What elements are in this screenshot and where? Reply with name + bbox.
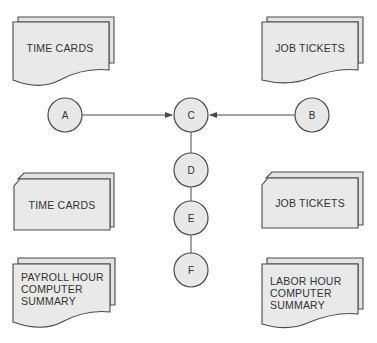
node-label: A bbox=[62, 110, 69, 121]
document-label-line-1: PAYROLL HOUR bbox=[21, 271, 104, 283]
node-label: C bbox=[187, 110, 194, 121]
document-label-line-3: SUMMARY bbox=[21, 295, 76, 307]
node-label: D bbox=[187, 165, 194, 176]
document-label-line-2: COMPUTER bbox=[21, 283, 83, 295]
flowchart-canvas: TIME CARDS JOB TICKETS A C B D E F TIME … bbox=[0, 0, 377, 343]
node-label: F bbox=[188, 265, 194, 276]
node-b[interactable]: B bbox=[295, 98, 329, 132]
document-label-line-1: LABOR HOUR bbox=[270, 275, 342, 287]
node-a[interactable]: A bbox=[48, 98, 82, 132]
node-label: B bbox=[309, 110, 316, 121]
card-label: JOB TICKETS bbox=[275, 197, 345, 209]
document-payroll-hour-summary[interactable]: PAYROLL HOUR COMPUTER SUMMARY bbox=[13, 258, 115, 327]
document-label: JOB TICKETS bbox=[275, 42, 345, 54]
node-d[interactable]: D bbox=[174, 153, 208, 187]
document-label-line-2: COMPUTER bbox=[270, 287, 332, 299]
card-label: TIME CARDS bbox=[29, 199, 96, 211]
document-time-cards-source[interactable]: TIME CARDS bbox=[13, 17, 114, 85]
node-e[interactable]: E bbox=[174, 201, 208, 235]
document-labor-hour-summary[interactable]: LABOR HOUR COMPUTER SUMMARY bbox=[262, 258, 363, 328]
document-job-tickets-source[interactable]: JOB TICKETS bbox=[262, 17, 363, 83]
document-label-line-3: SUMMARY bbox=[270, 299, 325, 311]
card-time-cards[interactable]: TIME CARDS bbox=[14, 173, 114, 230]
document-label: TIME CARDS bbox=[27, 42, 94, 54]
node-c[interactable]: C bbox=[174, 98, 208, 132]
card-job-tickets[interactable]: JOB TICKETS bbox=[262, 172, 363, 228]
node-label: E bbox=[188, 213, 195, 224]
node-f[interactable]: F bbox=[174, 253, 208, 287]
